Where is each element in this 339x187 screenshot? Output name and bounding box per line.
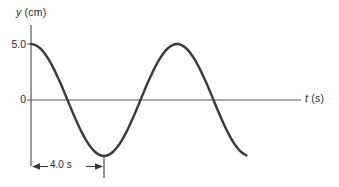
y-axis-label: y (cm) — [16, 6, 46, 18]
t-axis-unit: (s) — [311, 92, 324, 104]
y-tick-label-5: 5.0 — [2, 38, 26, 50]
t-axis-label: t (s) — [305, 92, 324, 104]
dimension-left-arrowhead — [32, 163, 40, 170]
y-tick-label-0: 0 — [2, 93, 26, 105]
oscillation-graph-figure: y (cm) t (s) 5.0 0 4.0 s — [0, 0, 339, 187]
dimension-right-arrowhead — [95, 163, 103, 170]
y-axis-unit: (cm) — [25, 6, 47, 18]
dimension-label-4s: 4.0 s — [50, 159, 72, 170]
